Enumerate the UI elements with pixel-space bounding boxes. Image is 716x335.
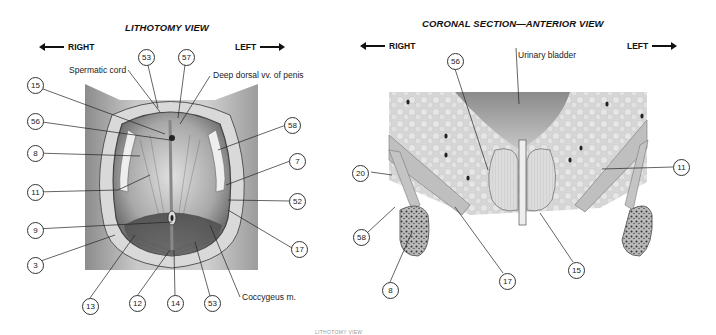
spermatic-cord-label: Spermatic cord [69, 65, 126, 75]
right-panel-direction-left: LEFT [627, 41, 674, 51]
arrow-right-icon [652, 45, 674, 47]
callout-8: 8 [27, 145, 44, 162]
coccygeus-label: Coccygeus m. [242, 292, 296, 302]
callout-7: 7 [289, 153, 306, 170]
callout-11-coronal: 11 [673, 159, 690, 176]
callout-56-coronal: 56 [447, 53, 464, 70]
callout-8-coronal: 8 [382, 282, 399, 299]
callout-58: 58 [284, 117, 301, 134]
callout-3: 3 [27, 257, 44, 274]
callout-20: 20 [352, 165, 369, 182]
callout-52: 52 [289, 193, 306, 210]
callout-15: 15 [27, 77, 44, 94]
footer-caption: LITHOTOMY VIEW [315, 329, 362, 335]
arrow-left-icon [363, 45, 385, 47]
callout-58-coronal: 58 [353, 229, 370, 246]
callout-53-bottom: 53 [204, 295, 221, 312]
callout-11: 11 [27, 184, 44, 201]
callout-56: 56 [27, 113, 44, 130]
callout-17: 17 [291, 241, 308, 258]
deep-dorsal-veins-label: Deep dorsal vv. of penis [213, 70, 304, 80]
direction-right-label: RIGHT [389, 41, 415, 51]
callout-14: 14 [167, 295, 184, 312]
callout-12: 12 [129, 295, 146, 312]
callout-57: 57 [178, 49, 195, 66]
coronal-section-title: CORONAL SECTION—ANTERIOR VIEW [422, 18, 604, 29]
right-panel-direction-right: RIGHT [363, 41, 415, 51]
callout-15-coronal: 15 [568, 262, 585, 279]
callout-53-top: 53 [138, 49, 155, 66]
callout-13: 13 [82, 298, 99, 315]
direction-left-label: LEFT [627, 41, 648, 51]
callout-9: 9 [27, 222, 44, 239]
urinary-bladder-label: Urinary bladder [518, 50, 576, 60]
callout-17-coronal: 17 [499, 273, 516, 290]
